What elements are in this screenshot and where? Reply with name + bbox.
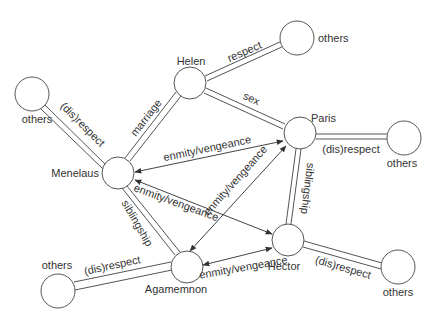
node-menelaus	[102, 157, 134, 189]
node-others-r	[387, 121, 421, 155]
label-menelaus: Menelaus	[51, 167, 99, 179]
edge-paris-others-r	[316, 134, 387, 139]
node-others-tl	[15, 77, 49, 111]
node-helen	[174, 67, 206, 99]
label-edge-agamemnon-paris: enmity/vengeance	[201, 143, 270, 217]
label-edge-menelaus-paris: enmity/vengeance	[162, 133, 252, 163]
label-others-br: others	[383, 286, 414, 298]
label-paris: Paris	[311, 112, 337, 124]
label-helen: Helen	[177, 55, 206, 67]
arrow-agamemnon-paris	[190, 146, 286, 251]
label-others-tl: others	[22, 113, 53, 125]
node-others-tr	[280, 21, 314, 55]
label-agamemnon: Agamemnon	[145, 283, 207, 295]
relationship-diagram: Menelaus Helen Paris Hector Agamemnon ot…	[0, 0, 434, 322]
label-edge-agamemnon-hector: enmity/vengeance	[198, 253, 288, 280]
label-edge-paris-hector: siblingship	[299, 162, 317, 214]
label-others-bl: others	[42, 259, 73, 271]
label-others-tr: others	[318, 32, 349, 44]
node-others-br	[381, 250, 415, 284]
node-others-bl	[41, 274, 75, 308]
label-edge-menelaus-helen: marriage	[128, 97, 164, 139]
label-others-r: others	[387, 157, 418, 169]
label-edge-agamemnon-others: (dis)respect	[83, 253, 142, 277]
node-hector	[272, 224, 304, 256]
label-edge-paris-others: (dis)respect	[322, 143, 379, 155]
edge-paris-hector	[286, 149, 301, 224]
label-edge-helen-paris: sex	[241, 89, 262, 107]
label-edge-menelaus-others: (dis)respect	[58, 100, 107, 149]
node-agamemnon	[171, 251, 203, 283]
label-edge-helen-others: respect	[225, 39, 263, 65]
